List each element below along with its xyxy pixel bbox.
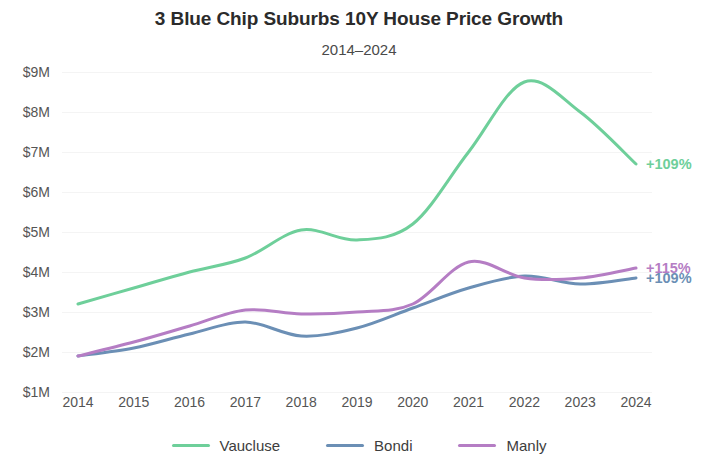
x-tick-label: 2019 [341,394,372,410]
plot-area: +109%+109%+115% [62,72,652,392]
y-tick-label: $3M [23,304,50,320]
series-line-vaucluse [78,81,636,304]
legend-label: Vaucluse [220,437,281,454]
legend-item-vaucluse[interactable]: Vaucluse [172,437,281,454]
x-tick-label: 2020 [397,394,428,410]
y-tick-label: $5M [23,224,50,240]
legend-swatch-icon [326,444,364,447]
x-tick-label: 2023 [565,394,596,410]
y-tick-label: $6M [23,184,50,200]
x-tick-label: 2021 [453,394,484,410]
end-label-manly: +115% [646,260,691,276]
chart-title: 3 Blue Chip Suburbs 10Y House Price Grow… [0,8,718,30]
legend-item-bondi[interactable]: Bondi [326,437,412,454]
legend-label: Manly [506,437,546,454]
x-tick-label: 2015 [118,394,149,410]
y-tick-label: $9M [23,64,50,80]
chart-subtitle: 2014–2024 [0,41,718,58]
series-lines [62,72,652,392]
x-tick-label: 2016 [174,394,205,410]
legend-item-manly[interactable]: Manly [458,437,546,454]
chart-container: 3 Blue Chip Suburbs 10Y House Price Grow… [0,0,718,463]
x-tick-label: 2022 [509,394,540,410]
x-tick-label: 2018 [286,394,317,410]
y-tick-label: $2M [23,344,50,360]
legend-label: Bondi [374,437,412,454]
y-tick-label: $8M [23,104,50,120]
series-line-bondi [78,276,636,356]
x-tick-label: 2017 [230,394,261,410]
y-tick-label: $4M [23,264,50,280]
end-label-vaucluse: +109% [646,156,692,172]
y-axis: $9M$8M$7M$6M$5M$4M$3M$2M$1M [0,72,56,392]
x-axis: 2014201520162017201820192020202120222023… [62,394,652,418]
legend-swatch-icon [172,444,210,447]
gridline [62,392,652,393]
x-tick-label: 2014 [62,394,93,410]
chart-legend: VaucluseBondiManly [0,437,718,454]
x-tick-label: 2024 [620,394,651,410]
y-tick-label: $1M [23,384,50,400]
legend-swatch-icon [458,444,496,447]
y-tick-label: $7M [23,144,50,160]
